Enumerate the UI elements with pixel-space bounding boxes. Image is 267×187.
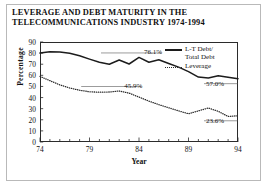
legend-label-leverage: Leverage [185,62,211,70]
legend-label-lt-debt: L-T Debt/ Total Debt [185,45,215,61]
legend-label-lt-debt-line-2: Total Debt [185,53,215,61]
legend-label-leverage-line-1: Leverage [185,62,211,70]
x-tick-label: 89 [179,145,199,154]
figure-title-line-2: TELECOMMUNICATIONS INDUSTRY 1974-1994 [12,18,227,28]
legend-label-lt-debt-line-1: L-T Debt/ [185,45,215,53]
y-tick-label: 10 [22,127,36,136]
y-tick-label: 40 [22,94,36,103]
x-tick-label: 79 [80,145,100,154]
legend-line-solid-icon [165,46,182,54]
data-point-annotation: 76.1% [144,48,162,56]
data-point-annotation: 45.9% [124,82,142,90]
legend-item-leverage: Leverage [165,62,233,71]
x-tick-label: 94 [228,145,248,154]
x-tick-label: 84 [129,145,149,154]
chart-legend: L-T Debt/ Total Debt Leverage [165,45,233,72]
data-point-annotation: 23.6% [206,117,224,125]
figure-title-line-1: LEVERAGE AND DEBT MATURITY IN THE [12,8,227,18]
figure-title: LEVERAGE AND DEBT MATURITY IN THE TELECO… [12,8,227,28]
y-tick-label: 70 [22,60,36,69]
y-tick-label: 60 [22,71,36,80]
page-rule-left [6,4,7,181]
y-tick-label: 90 [22,38,36,47]
page-rule-right [260,4,261,181]
y-tick-label: 50 [22,82,36,91]
page-rule-bottom [6,180,261,181]
x-axis-label: Year [40,157,238,166]
x-tick-label: 74 [30,145,50,154]
legend-item-lt-debt: L-T Debt/ Total Debt [165,45,233,61]
y-tick-label: 30 [22,105,36,114]
data-point-annotation: 57.0% [206,80,224,88]
y-tick-label: 80 [22,49,36,58]
legend-line-dotted-icon [165,63,182,71]
page-rule-top [6,4,261,5]
figure-container: LEVERAGE AND DEBT MATURITY IN THE TELECO… [0,0,267,187]
y-tick-label: 20 [22,116,36,125]
